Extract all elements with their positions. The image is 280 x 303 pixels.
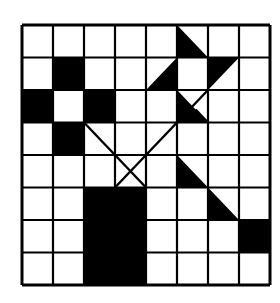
pinwheel-right	[208, 58, 239, 91]
filled-cell	[115, 188, 146, 221]
filled-cell	[115, 220, 146, 253]
grid-puzzle-figure	[0, 0, 280, 303]
filled-cell	[84, 90, 115, 123]
filled-cell	[53, 58, 84, 91]
filled-cell	[84, 253, 115, 286]
diag-tri-2	[208, 188, 239, 221]
filled-cell	[239, 220, 270, 253]
filled-cell	[115, 253, 146, 286]
filled-cell	[53, 123, 84, 156]
filled-cell	[84, 188, 115, 221]
diag-tri-1	[177, 155, 208, 188]
pinwheel-left	[146, 58, 177, 91]
filled-cell	[22, 90, 53, 123]
pinwheel-top	[177, 25, 208, 58]
filled-cell	[84, 220, 115, 253]
x-line-2	[115, 90, 208, 188]
